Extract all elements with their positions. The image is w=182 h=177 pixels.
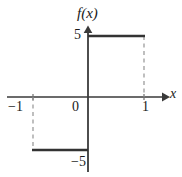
step-function-figure: f(x) 5 −5 −1 0 1 x — [0, 0, 182, 177]
x-axis-arrowhead — [162, 93, 170, 102]
origin-label: 0 — [72, 100, 79, 114]
x-axis-label: x — [170, 87, 176, 101]
y-axis-arrowhead — [84, 26, 93, 34]
x-tick-label-negative-1: −1 — [8, 100, 23, 114]
y-tick-label-5: 5 — [74, 28, 81, 42]
y-tick-label-negative-5: −5 — [71, 155, 86, 169]
function-label: f(x) — [77, 6, 98, 21]
x-tick-label-1: 1 — [142, 100, 149, 114]
plot-canvas — [0, 0, 182, 177]
